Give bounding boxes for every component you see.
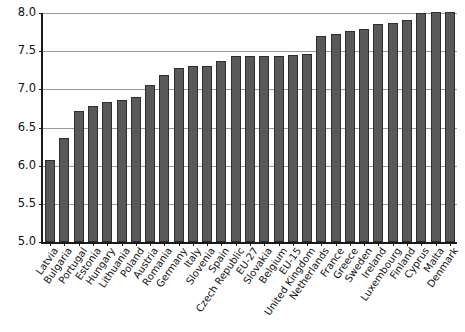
bar (259, 56, 269, 242)
bars-group (43, 13, 457, 242)
bar (45, 160, 55, 242)
plot-area (41, 13, 457, 244)
bar (59, 138, 69, 242)
bar (74, 111, 84, 242)
bar (145, 85, 155, 242)
bar (345, 31, 355, 242)
y-tick-label: 6.0 (0, 160, 36, 172)
y-tick-label: 8.0 (0, 7, 36, 19)
bar (117, 100, 127, 242)
y-tick-label: 7.0 (0, 83, 36, 95)
y-axis-labels: 8.07.57.06.56.05.55.0 (0, 0, 41, 332)
bar (359, 29, 369, 242)
bar (131, 97, 141, 242)
bar (288, 55, 298, 242)
y-tick-label: 6.5 (0, 122, 36, 134)
bar (231, 56, 241, 242)
bar (373, 24, 383, 242)
y-tick-mark (39, 242, 43, 243)
y-tick-label: 5.0 (0, 236, 36, 248)
bar (245, 56, 255, 242)
y-tick-label: 5.5 (0, 198, 36, 210)
bar (216, 61, 226, 242)
bar (202, 66, 212, 242)
bar (388, 23, 398, 242)
bar (188, 66, 198, 242)
bar (274, 56, 284, 242)
bar (402, 20, 412, 242)
bar (431, 12, 441, 242)
bar (331, 34, 341, 242)
bar (316, 36, 326, 242)
x-axis-labels: LatviaBulgariaPortugalEstoniaHungaryLith… (41, 246, 455, 332)
bar (102, 102, 112, 242)
bar (445, 12, 455, 242)
bar (416, 13, 426, 242)
bar (302, 54, 312, 242)
bar (174, 68, 184, 242)
bar (159, 75, 169, 242)
y-tick-label: 7.5 (0, 45, 36, 57)
bar (88, 106, 98, 242)
bar-chart: 8.07.57.06.56.05.55.0 LatviaBulgariaPort… (0, 0, 465, 332)
